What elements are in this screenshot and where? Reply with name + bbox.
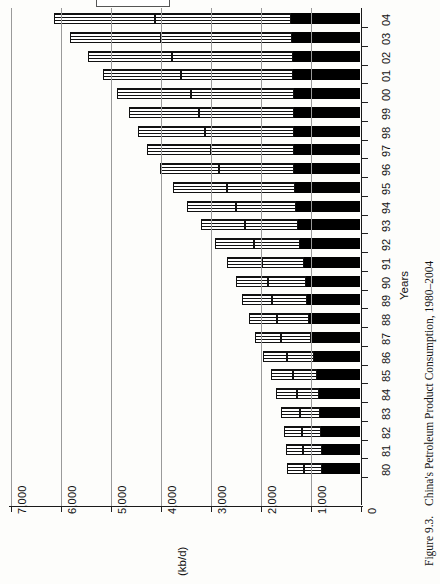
bar-segment-grid [255,332,281,343]
figure-page: 01,0002,0003,0004,0005,0006,0007,000 808… [0,0,440,584]
bar-row [0,144,440,155]
bar-segment-grid [271,369,293,380]
bar-segment-black [322,444,361,455]
year-label-96: 96 [380,164,392,176]
bar-segment-grid [215,238,254,249]
category-tick [361,196,368,197]
bar-segment-black [311,332,360,343]
bar-segment-black [294,107,360,118]
bar-row [0,388,440,399]
bar-segment-lined [191,88,294,99]
bar-segment-black [322,463,360,474]
category-tick [361,46,368,47]
category-tick [361,102,368,103]
bar-segment-black [307,294,360,305]
year-label-87: 87 [380,333,392,345]
category-tick [361,27,368,28]
bars-container [0,0,440,440]
value-tick-label: 6,000 [66,485,78,514]
bar-row [0,313,440,324]
value-axis-line [9,506,363,507]
year-label-86: 86 [380,351,392,363]
value-tick [361,506,362,512]
year-label-99: 99 [380,108,392,120]
bar-segment-grid [103,69,181,80]
bar-segment-lined [172,51,293,62]
bar-row [0,126,440,137]
category-tick [361,121,368,122]
category-tick [361,308,368,309]
category-tick [361,83,368,84]
bar-row [0,219,440,230]
bar-segment-lined [161,32,292,43]
year-label-04: 04 [380,14,392,26]
bar-row [0,407,440,418]
value-tick-label: 1,000 [316,485,328,514]
bar-row [0,107,440,118]
gridline [311,8,312,508]
bar-row [0,257,440,268]
bar-segment-black [314,351,361,362]
bar-row [0,463,440,474]
category-tick [361,140,368,141]
bar-segment-grid [129,107,199,118]
year-label-94: 94 [380,201,392,213]
value-tick-label: 2,000 [266,485,278,514]
year-label-80: 80 [380,464,392,476]
bar-segment-black [296,201,360,212]
category-tick [361,346,368,347]
bar-segment-grid [276,388,297,399]
bar-segment-lined [245,219,298,230]
bar-segment-black [295,182,360,193]
bar-segment-black [319,388,361,399]
bar-segment-black [298,219,361,230]
category-tick [361,158,368,159]
value-tick-label: 3,000 [216,485,228,514]
bar-row [0,51,440,62]
bar-segment-black [293,69,360,80]
bar-segment-grid [173,182,227,193]
bar-segment-grid [147,144,211,155]
bar-row [0,426,440,437]
bar-row [0,69,440,80]
bar-segment-lined [303,444,322,455]
category-tick [361,233,368,234]
bar-row [0,163,440,174]
category-tick [361,290,368,291]
bar-segment-black [306,276,361,287]
bar-segment-lined [262,257,304,268]
bar-segment-lined [297,388,319,399]
bar-segment-black [293,51,361,62]
bar-row [0,294,440,305]
value-tick [211,506,212,512]
category-tick [361,383,368,384]
bar-segment-lined [211,144,294,155]
category-tick [361,215,368,216]
category-tick [361,365,368,366]
bar-segment-black [321,426,360,437]
gridline [61,8,62,508]
value-tick [11,506,12,512]
category-tick [361,458,368,459]
value-tick [161,506,162,512]
value-tick [111,506,112,512]
legend-box [96,0,170,7]
bar-segment-grid [88,51,172,62]
bar-segment-grid [201,219,245,230]
year-label-81: 81 [380,445,392,457]
year-label-98: 98 [380,126,392,138]
bar-segment-lined [199,107,294,118]
year-label-02: 02 [380,51,392,63]
bar-segment-lined [287,351,314,362]
gridline [261,8,262,508]
year-label-85: 85 [380,370,392,382]
bar-row [0,182,440,193]
bar-segment-grid [249,313,277,324]
year-label-93: 93 [380,220,392,232]
bar-row [0,32,440,43]
category-tick [361,440,368,441]
year-label-89: 89 [380,295,392,307]
category-tick [361,327,368,328]
category-tick [361,421,368,422]
bar-segment-black [294,126,360,137]
